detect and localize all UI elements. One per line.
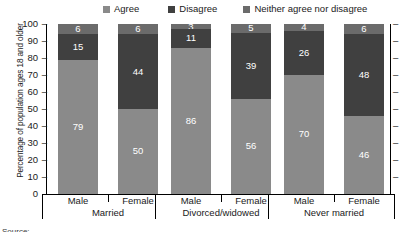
x-group-label: Married: [48, 207, 168, 218]
bar-segment-disagree: 44: [118, 34, 158, 109]
legend-label-neither: Neither agree nor disagree: [254, 4, 367, 14]
x-group-label: Divorced/widowed: [161, 207, 281, 218]
legend-label-disagree: Disagree: [179, 4, 217, 14]
bar-value-label: 48: [359, 70, 370, 80]
x-axis-sub-separator: [108, 194, 109, 202]
bar-segment-agree: 86: [171, 48, 211, 194]
x-axis-categories: MaleFemaleMaleFemaleMaleFemaleMarriedDiv…: [42, 194, 395, 232]
y-tick-label: 90–: [3, 36, 47, 46]
bar-value-label: 26: [299, 48, 310, 58]
bar-segment-neither-agree-nor-disagree: 6: [344, 24, 384, 34]
bar-value-label: 86: [186, 116, 197, 126]
x-sub-label: Female: [221, 195, 281, 206]
y-tick-label: 80–: [3, 53, 47, 63]
bar-value-label: 3: [188, 24, 193, 29]
x-sub-label: Male: [274, 195, 334, 206]
x-axis-group-separator: [155, 194, 156, 219]
bar-value-label: 6: [75, 24, 80, 34]
y-tick-label: 50–: [3, 104, 47, 114]
y-tick-mark-right: –: [390, 155, 411, 165]
bar-segment-disagree: 11: [171, 29, 211, 48]
x-axis-sub-separator: [334, 194, 335, 202]
bar-married-female[interactable]: 64450: [118, 24, 158, 194]
bar-value-label: 46: [359, 150, 370, 160]
x-axis-sub-separator: [221, 194, 222, 202]
y-tick-mark-right: –: [390, 19, 411, 29]
chart-legend: Agree Disagree Neither agree nor disagre…: [103, 1, 403, 17]
bar-segment-agree: 50: [118, 109, 158, 194]
y-tick-label: 0: [3, 189, 47, 199]
bar-segment-agree: 46: [344, 116, 384, 194]
source-note: Source:: [2, 227, 30, 232]
y-tick-mark-right: –: [390, 36, 411, 46]
x-axis-group-separator: [42, 194, 43, 219]
bar-value-label: 6: [361, 24, 366, 34]
bar-segment-agree: 79: [58, 60, 98, 194]
bar-segment-disagree: 39: [231, 33, 271, 99]
y-tick-mark-right: –: [390, 53, 411, 63]
bar-divorced-widowed-female[interactable]: 53956: [231, 24, 271, 194]
bar-segment-disagree: 15: [58, 34, 98, 60]
legend-item-agree: Agree: [103, 4, 139, 14]
y-tick-label: 70–: [3, 70, 47, 80]
y-tick-mark-right: –: [390, 70, 411, 80]
bar-value-label: 15: [73, 42, 84, 52]
bar-divorced-widowed-male[interactable]: 31186: [171, 24, 211, 194]
y-tick-mark-right: –: [390, 138, 411, 148]
y-tick-mark-right: –: [390, 87, 411, 97]
bar-value-label: 79: [73, 122, 84, 132]
bar-value-label: 56: [246, 141, 257, 151]
bar-segment-neither-agree-nor-disagree: 5: [231, 24, 271, 33]
x-axis-group-separator: [394, 194, 395, 219]
bar-value-label: 44: [133, 67, 144, 77]
bar-segment-agree: 56: [231, 99, 271, 194]
bar-segment-neither-agree-nor-disagree: 6: [58, 24, 98, 34]
bar-segment-disagree: 26: [284, 31, 324, 75]
bar-never-married-female[interactable]: 64846: [344, 24, 384, 194]
bar-value-label: 11: [186, 33, 196, 43]
bar-value-label: 70: [299, 129, 310, 139]
x-sub-label: Female: [108, 195, 168, 206]
stacked-bar-chart: Agree Disagree Neither agree nor disagre…: [0, 0, 411, 232]
y-tick-label: 10–: [3, 172, 47, 182]
y-tick-mark-right: –: [390, 172, 411, 182]
x-sub-label: Male: [161, 195, 221, 206]
y-tick-label: 100–: [3, 19, 47, 29]
bar-value-label: 5: [248, 24, 253, 33]
bar-segment-neither-agree-nor-disagree: 6: [118, 24, 158, 34]
x-axis-group-separator: [268, 194, 269, 219]
legend-swatch-agree: [103, 6, 110, 13]
bar-married-male[interactable]: 61579: [58, 24, 98, 194]
y-tick-mark-right: –: [390, 104, 411, 114]
x-sub-label: Male: [48, 195, 108, 206]
legend-label-agree: Agree: [114, 4, 139, 14]
bar-value-label: 50: [133, 146, 144, 156]
bar-value-label: 39: [246, 61, 257, 71]
x-sub-label: Female: [334, 195, 394, 206]
y-tick-mark-right: –: [390, 121, 411, 131]
plot-area: 100––90––80––70––60––50––40––30––20––10–…: [47, 24, 390, 194]
bar-value-label: 4: [301, 24, 306, 31]
y-tick-label: 60–: [3, 87, 47, 97]
bar-segment-agree: 70: [284, 75, 324, 194]
x-group-label: Never married: [274, 207, 394, 218]
y-tick-label: 20–: [3, 155, 47, 165]
bar-segment-neither-agree-nor-disagree: 4: [284, 24, 324, 31]
y-tick-label: 40–: [3, 121, 47, 131]
bar-value-label: 6: [135, 24, 140, 34]
bar-segment-disagree: 48: [344, 34, 384, 116]
bar-never-married-male[interactable]: 42670: [284, 24, 324, 194]
legend-item-disagree: Disagree: [168, 4, 217, 14]
legend-swatch-neither: [243, 6, 250, 13]
legend-item-neither: Neither agree nor disagree: [243, 4, 367, 14]
y-tick-label: 30–: [3, 138, 47, 148]
legend-swatch-disagree: [168, 6, 175, 13]
